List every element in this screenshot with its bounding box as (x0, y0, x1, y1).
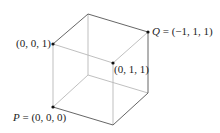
edge-bottom-front-right (113, 93, 148, 125)
label-011: (0, 1, 1) (114, 63, 149, 76)
edge-top-front-right (113, 32, 148, 63)
edge-top-front-left (53, 44, 113, 63)
edge-top-back-left (53, 14, 88, 44)
vertex-p-dot (51, 105, 54, 108)
edge-back-left-bottom (53, 75, 88, 107)
vertex-001-dot (51, 42, 54, 45)
label-p-eq: = (0, 0, 0) (20, 111, 67, 124)
label-q: Q = (−1, 1, 1) (152, 25, 213, 38)
cube-diagram: (0, 0, 1) Q = (−1, 1, 1) (0, 1, 1) P = (… (0, 0, 220, 133)
label-p: P = (0, 0, 0) (12, 111, 67, 124)
edge-top-back-right (88, 14, 148, 32)
label-q-name: Q (152, 25, 160, 37)
label-001: (0, 0, 1) (16, 37, 51, 50)
vertex-q-dot (146, 30, 149, 33)
label-q-eq: = (−1, 1, 1) (160, 25, 213, 38)
edge-back-right-bottom (88, 75, 148, 93)
